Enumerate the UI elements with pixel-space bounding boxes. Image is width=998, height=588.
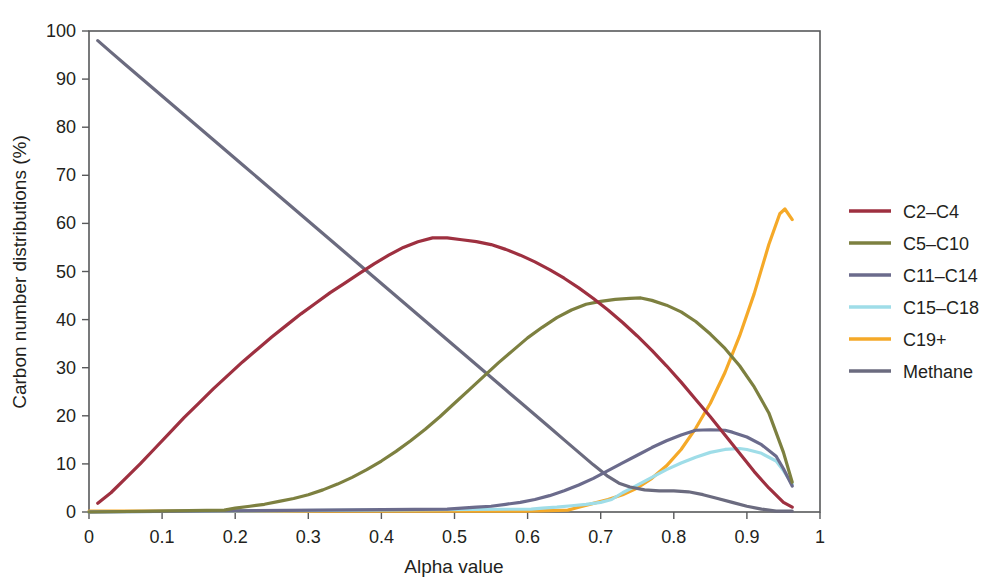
y-tick-label: 10	[56, 454, 76, 474]
series-line-c15-c18	[89, 449, 792, 512]
y-tick-label: 30	[56, 358, 76, 378]
y-tick-label: 70	[56, 165, 76, 185]
plot-frame	[89, 31, 820, 512]
x-axis-ticks	[89, 512, 820, 519]
legend-label-3: C11–C14	[903, 266, 978, 286]
series-line-c5-c10	[89, 298, 792, 512]
x-tick-label: 0.7	[588, 527, 613, 547]
x-tick-label: 0.3	[296, 527, 321, 547]
y-axis-title: Carbon number distributions (%)	[9, 135, 30, 409]
legend-label-4: C15–C18	[903, 298, 979, 318]
y-tick-label: 60	[56, 213, 76, 233]
x-tick-label: 0.1	[150, 527, 175, 547]
x-tick-label: 1	[815, 527, 825, 547]
chart-figure: 00.10.20.30.40.50.60.70.80.91 0102030405…	[0, 0, 998, 588]
series-group	[89, 41, 792, 512]
legend-label-2: C5–C10	[903, 234, 969, 254]
series-line-c2-c4	[98, 238, 792, 507]
x-axis-tick-labels: 00.10.20.30.40.50.60.70.80.91	[84, 527, 825, 547]
legend-label-6: Methane	[903, 362, 973, 382]
y-tick-label: 90	[56, 69, 76, 89]
y-tick-label: 0	[66, 502, 76, 522]
x-tick-label: 0.5	[442, 527, 467, 547]
y-tick-label: 50	[56, 262, 76, 282]
x-tick-label: 0.8	[661, 527, 686, 547]
line-chart: 00.10.20.30.40.50.60.70.80.91 0102030405…	[0, 0, 998, 588]
legend-label-5: C19+	[903, 330, 947, 350]
y-axis-tick-labels: 0102030405060708090100	[46, 21, 76, 522]
legend-label-1: C2–C4	[903, 202, 959, 222]
x-tick-label: 0.4	[369, 527, 394, 547]
x-tick-label: 0.6	[515, 527, 540, 547]
x-tick-label: 0.2	[223, 527, 248, 547]
y-tick-label: 20	[56, 406, 76, 426]
x-axis-title: Alpha value	[404, 556, 503, 577]
y-tick-label: 80	[56, 117, 76, 137]
y-tick-label: 100	[46, 21, 76, 41]
x-tick-label: 0.9	[734, 527, 759, 547]
chart-legend: C2–C4C5–C10C11–C14C15–C18C19+Methane	[849, 202, 979, 382]
series-line-c19	[89, 209, 792, 511]
x-tick-label: 0	[84, 527, 94, 547]
y-tick-label: 40	[56, 310, 76, 330]
y-axis-ticks	[82, 31, 89, 512]
